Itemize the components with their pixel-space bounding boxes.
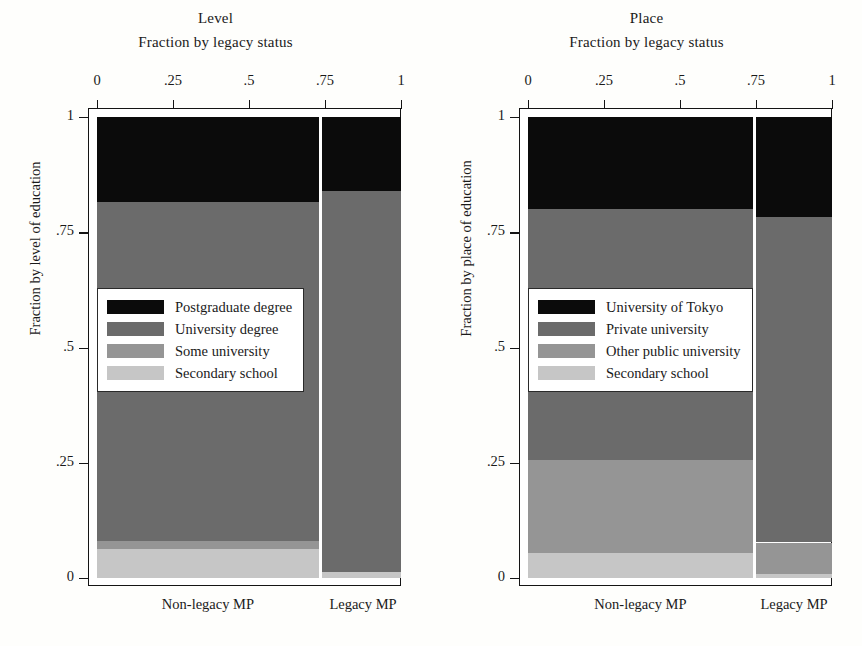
y-axis-tick bbox=[510, 578, 519, 579]
legend-item: Postgraduate degree bbox=[107, 296, 292, 318]
bar-segment bbox=[97, 541, 319, 549]
category-label: Non-legacy MP bbox=[128, 596, 288, 613]
y-axis-tick bbox=[510, 348, 519, 349]
panel-title: Place bbox=[431, 10, 862, 27]
y-axis-tick bbox=[79, 578, 88, 579]
x-axis-tick bbox=[249, 100, 250, 109]
legend-label: Secondary school bbox=[606, 366, 709, 381]
x-axis-tick-label: .5 bbox=[660, 72, 700, 89]
y-axis-tick bbox=[79, 348, 88, 349]
y-axis-tick bbox=[79, 463, 88, 464]
panel-subtitle: Fraction by legacy status bbox=[431, 34, 862, 51]
chart-legend: Postgraduate degreeUniversity degreeSome… bbox=[97, 288, 304, 392]
legend-item: Secondary school bbox=[538, 362, 741, 384]
legend-swatch-icon bbox=[538, 366, 595, 380]
legend-item: Secondary school bbox=[107, 362, 292, 384]
x-axis-tick bbox=[401, 100, 402, 109]
bar-segment bbox=[528, 117, 753, 209]
x-axis-tick-label: .75 bbox=[305, 72, 345, 89]
legend-label: Postgraduate degree bbox=[175, 300, 292, 315]
x-axis-tick-label: 1 bbox=[812, 72, 852, 89]
y-axis-tick-label: .5 bbox=[459, 338, 505, 355]
y-axis-tick bbox=[510, 232, 519, 233]
x-axis-tick bbox=[680, 100, 681, 109]
y-axis-tick bbox=[79, 232, 88, 233]
x-axis-tick bbox=[604, 100, 605, 109]
x-axis-tick-label: .75 bbox=[736, 72, 776, 89]
x-axis-tick bbox=[97, 100, 98, 109]
bar-segment bbox=[528, 553, 753, 578]
panel-subtitle: Fraction by legacy status bbox=[0, 34, 431, 51]
y-axis-tick-label: .25 bbox=[459, 453, 505, 470]
y-axis-tick bbox=[510, 117, 519, 118]
legend-label: Some university bbox=[175, 344, 270, 359]
panel-title: Level bbox=[0, 10, 431, 27]
x-axis-tick bbox=[173, 100, 174, 109]
legend-item: University of Tokyo bbox=[538, 296, 741, 318]
bar-segment bbox=[756, 117, 832, 217]
category-label: Non-legacy MP bbox=[560, 596, 720, 613]
legend-item: Private university bbox=[538, 318, 741, 340]
bar-segment bbox=[756, 217, 832, 542]
y-axis-tick-label: 0 bbox=[28, 568, 74, 585]
y-axis-tick-label: .75 bbox=[459, 222, 505, 239]
x-axis-tick bbox=[832, 100, 833, 109]
chart-legend: University of TokyoPrivate universityOth… bbox=[528, 288, 753, 392]
bar-segment bbox=[756, 543, 832, 574]
x-axis-tick-label: .5 bbox=[229, 72, 269, 89]
bar-legacy-mp bbox=[756, 117, 832, 578]
y-axis-tick-label: 1 bbox=[28, 107, 74, 124]
bar-segment bbox=[756, 574, 832, 578]
bar-segment bbox=[322, 191, 401, 573]
bar-segment bbox=[97, 549, 319, 578]
legend-swatch-icon bbox=[538, 322, 595, 336]
y-axis-tick-label: 0 bbox=[459, 568, 505, 585]
x-axis-tick-label: 1 bbox=[381, 72, 421, 89]
chart-panel-level: Level Fraction by legacy status Fraction… bbox=[0, 0, 431, 646]
legend-item: Other public university bbox=[538, 340, 741, 362]
bar-segment bbox=[322, 572, 401, 578]
bar-legacy-mp bbox=[322, 117, 401, 578]
legend-label: Secondary school bbox=[175, 366, 278, 381]
x-axis-tick bbox=[756, 100, 757, 109]
legend-item: University degree bbox=[107, 318, 292, 340]
legend-label: University of Tokyo bbox=[606, 300, 723, 315]
x-axis-tick-label: 0 bbox=[77, 72, 117, 89]
legend-label: Other public university bbox=[606, 344, 741, 359]
legend-swatch-icon bbox=[107, 300, 164, 314]
x-axis-tick-label: .25 bbox=[584, 72, 624, 89]
legend-swatch-icon bbox=[107, 322, 164, 336]
y-axis-tick-label: .5 bbox=[28, 338, 74, 355]
y-axis-tick-label: .25 bbox=[28, 453, 74, 470]
category-label: Legacy MP bbox=[283, 596, 443, 613]
chart-panel-place: Place Fraction by legacy status Fraction… bbox=[431, 0, 862, 646]
legend-swatch-icon bbox=[538, 344, 595, 358]
legend-label: Private university bbox=[606, 322, 709, 337]
x-axis-tick bbox=[528, 100, 529, 109]
legend-swatch-icon bbox=[107, 344, 164, 358]
x-axis-tick-label: .25 bbox=[153, 72, 193, 89]
bar-segment bbox=[97, 117, 319, 202]
bar-segment bbox=[528, 460, 753, 552]
legend-swatch-icon bbox=[538, 300, 595, 314]
y-axis-tick-label: 1 bbox=[459, 107, 505, 124]
y-axis-tick bbox=[510, 463, 519, 464]
x-axis-tick-label: 0 bbox=[508, 72, 548, 89]
legend-item: Some university bbox=[107, 340, 292, 362]
category-label: Legacy MP bbox=[714, 596, 862, 613]
legend-label: University degree bbox=[175, 322, 278, 337]
bar-segment bbox=[322, 117, 401, 191]
y-axis-tick bbox=[79, 117, 88, 118]
x-axis-tick bbox=[325, 100, 326, 109]
legend-swatch-icon bbox=[107, 366, 164, 380]
y-axis-tick-label: .75 bbox=[28, 222, 74, 239]
